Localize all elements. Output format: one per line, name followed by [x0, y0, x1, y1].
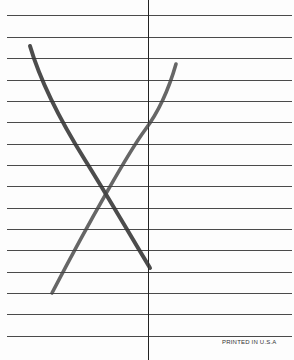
x-mark-stroke-b: [52, 64, 176, 293]
x-mark-stroke-a: [30, 46, 150, 268]
x-mark-drawing: [0, 0, 294, 360]
ruled-paper: PRINTED IN U.S.A: [0, 0, 294, 360]
printed-in-usa-imprint: PRINTED IN U.S.A: [222, 339, 277, 345]
